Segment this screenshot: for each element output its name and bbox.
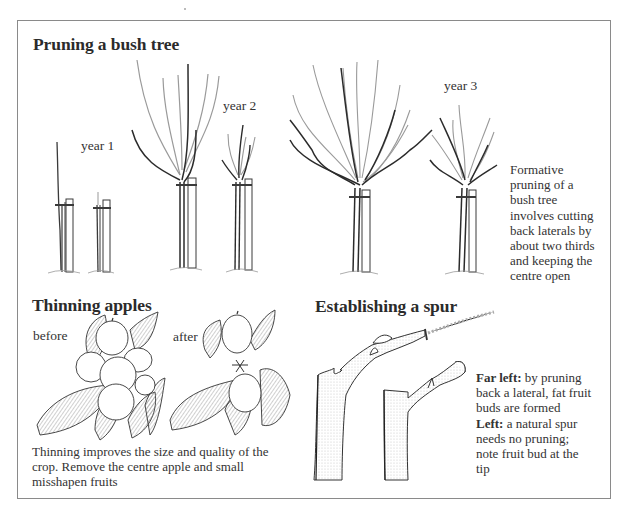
pruning-title: Pruning a bush tree	[33, 34, 179, 55]
pruning-caption-line: back laterals by	[510, 223, 595, 238]
year-2-tree-unpruned	[132, 60, 219, 270]
year-2-tree-pruned	[222, 125, 258, 272]
spur-caption-line: note fruit bud at the	[476, 446, 591, 461]
spur-title: Establishing a spur	[315, 296, 457, 317]
spur-caption-line: back a lateral, fat fruit	[476, 385, 591, 400]
year-1-tree-pruned	[88, 192, 114, 273]
after-label: after	[173, 329, 198, 345]
year-2-label: year 2	[223, 98, 256, 114]
spur-caption-line: Left: a natural spur	[476, 416, 591, 431]
spur-caption-line: needs no pruning;	[476, 431, 591, 446]
spur-caption: Far left: by pruning back a lateral, fat…	[476, 370, 591, 476]
far-left-text: by pruning	[522, 370, 582, 385]
pruning-caption-line: bush tree	[510, 192, 595, 207]
year-1-label: year 1	[81, 138, 114, 154]
pruning-caption: Formative pruning of a bush tree involve…	[510, 162, 595, 284]
left-label: Left:	[476, 416, 503, 431]
pruning-caption-line: Formative	[510, 162, 595, 177]
year-1-tree-unpruned	[48, 142, 80, 273]
thinning-caption-line: Thinning improves the size and quality o…	[32, 444, 268, 459]
pruning-caption-line: about two thirds	[510, 238, 595, 253]
spur-caption-line: buds are formed	[476, 400, 591, 415]
pruning-caption-line: pruning of a	[510, 177, 595, 192]
spur-caption-line: Far left: by pruning	[476, 370, 591, 385]
spur-natural	[384, 361, 465, 480]
spur-caption-line: tip	[476, 461, 591, 476]
year-3-tree-pruned	[430, 105, 497, 274]
pruning-caption-line: centre open	[510, 268, 595, 283]
year-3-label: year 3	[444, 78, 477, 94]
thinning-title: Thinning apples	[32, 295, 152, 316]
far-left-label: Far left:	[476, 370, 522, 385]
pruning-caption-line: involves cutting	[510, 208, 595, 223]
left-text: a natural spur	[503, 416, 577, 431]
thinning-caption: Thinning improves the size and quality o…	[32, 444, 268, 490]
thinning-caption-line: crop. Remove the centre apple and small	[32, 459, 268, 474]
thinning-caption-line: misshapen fruits	[32, 474, 268, 489]
year-3-tree-unpruned	[290, 60, 432, 274]
before-label: before	[33, 328, 67, 344]
pruning-caption-line: and keeping the	[510, 253, 595, 268]
